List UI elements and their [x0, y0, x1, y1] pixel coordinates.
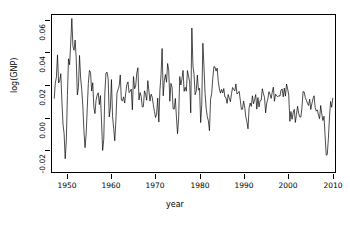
- x-tick-mark: [333, 174, 334, 179]
- plot-frame: [51, 14, 336, 173]
- series-line-chart: [52, 15, 335, 172]
- x-tick-mark: [111, 174, 112, 179]
- y-tick-mark: [45, 20, 50, 21]
- x-tick-label-1960: 1960: [93, 182, 129, 190]
- x-tick-mark: [200, 174, 201, 179]
- y-tick-label-0.04: 0.04: [39, 56, 47, 86]
- x-tick-label-1990: 1990: [226, 182, 262, 190]
- y-tick-label-0.00: 0.00: [39, 122, 47, 152]
- y-tick-label-0.06: 0.06: [39, 24, 47, 54]
- y-tick-mark: [45, 150, 50, 151]
- x-axis-title: year: [0, 200, 350, 209]
- y-tick-mark: [45, 118, 50, 119]
- x-tick-label-2010: 2010: [315, 182, 350, 190]
- x-tick-label-1970: 1970: [137, 182, 173, 190]
- y-tick-mark: [45, 85, 50, 86]
- y-tick-mark: [45, 52, 50, 53]
- x-tick-label-1950: 1950: [49, 182, 85, 190]
- plot-root: 0.06 0.04 0.02 0.00 -0.02 1950 1960 1970…: [0, 0, 350, 230]
- x-tick-label-2000: 2000: [270, 182, 306, 190]
- series-polyline: [54, 19, 333, 159]
- y-axis-title: log(GNP): [10, 58, 19, 93]
- x-tick-mark: [244, 174, 245, 179]
- x-tick-mark: [288, 174, 289, 179]
- x-tick-label-1980: 1980: [182, 182, 218, 190]
- y-tick-label-0.02: 0.02: [39, 89, 47, 119]
- x-tick-mark: [155, 174, 156, 179]
- y-tick-label--0.02: -0.02: [39, 154, 47, 184]
- x-tick-mark: [67, 174, 68, 179]
